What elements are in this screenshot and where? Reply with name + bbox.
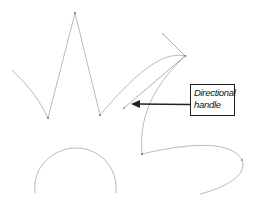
- callout-arrow: [131, 100, 190, 108]
- s-curve-path: [141, 56, 243, 194]
- anchor-point: [47, 117, 49, 119]
- anchor-point: [241, 159, 243, 161]
- directional-handle-point: [123, 107, 125, 109]
- anchor-point: [141, 153, 143, 155]
- zigzag-path: [12, 12, 101, 119]
- directional-handle-line: [124, 56, 185, 108]
- semicircle-arc: [35, 148, 116, 193]
- directional-handle-line: [163, 34, 185, 56]
- curve-path: [100, 33, 186, 115]
- directional-handle-callout: Directional handle: [190, 84, 235, 116]
- callout-line-1: Directional: [194, 87, 231, 99]
- directional-handle-point: [162, 33, 164, 35]
- callout-line-2: handle: [194, 99, 231, 111]
- anchor-point: [74, 12, 76, 14]
